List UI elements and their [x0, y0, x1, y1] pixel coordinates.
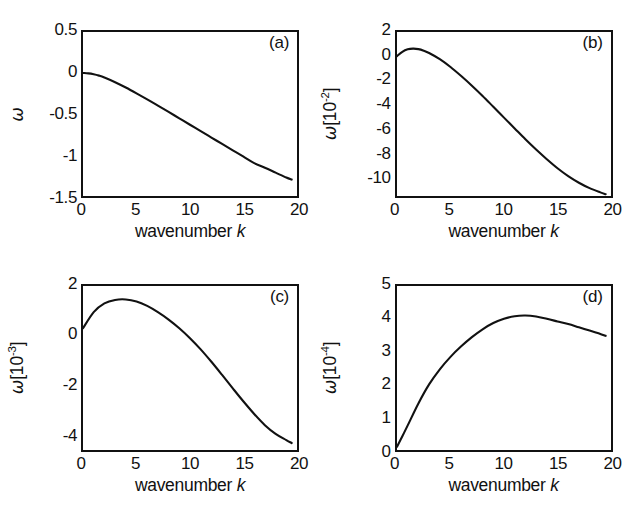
panel-c-x-axis-title: wavenumber k [81, 475, 299, 496]
panel-c-x-axis-title-prefix: wavenumber [135, 475, 237, 495]
panel-b: 20-2-4-6-8-10 ω[10-2] (b) 05101520 waven… [314, 0, 627, 254]
panel-d-curve-svg [397, 286, 611, 450]
panel-d-x-axis-title-prefix: wavenumber [448, 475, 550, 495]
panel-a-y-axis-title: ω [6, 30, 28, 198]
panel-b-plot-area: (b) [395, 30, 613, 198]
panel-b-xtick-label: 15 [549, 200, 567, 220]
panel-d-xtick-label: 5 [444, 454, 453, 474]
panel-c-ytick-label: -2 [63, 375, 77, 395]
panel-b-xtick-label: 0 [390, 200, 399, 220]
panel-d-unit-close: ] [320, 341, 340, 346]
panel-d-xtick-label: 10 [494, 454, 512, 474]
panel-b-xtick-label: 5 [444, 200, 453, 220]
panel-d-ytick-label: 5 [381, 274, 390, 294]
panel-b-ytick-label: 2 [381, 20, 390, 40]
panel-d-x-axis-title: wavenumber k [395, 475, 613, 496]
panel-b-xtick-label: 20 [603, 200, 621, 220]
dispersion-relation-figure: 0.50-0.5-1-1.5 ω (a) 05101520 wavenumber… [0, 0, 627, 507]
panel-b-unit-open: [10 [320, 102, 340, 126]
panel-c-curve-svg [83, 286, 297, 450]
panel-c-plot-area: (c) [81, 284, 299, 452]
panel-a-ytick-label: -1 [63, 146, 77, 166]
panel-d-unit-open: [10 [320, 356, 340, 380]
panel-d-ytick-label: 2 [381, 374, 390, 394]
panel-c-xtick-label: 20 [290, 454, 308, 474]
panel-b-y-axis-title: ω[10-2] [320, 30, 342, 198]
panel-c-xtick-label: 10 [181, 454, 199, 474]
panel-b-x-axis-title-prefix: wavenumber [448, 221, 550, 241]
panel-a: 0.50-0.5-1-1.5 ω (a) 05101520 wavenumber… [0, 0, 314, 254]
panel-a-ytick-label: -0.5 [49, 104, 77, 124]
panel-d-plot-area: (d) [395, 284, 613, 452]
panel-b-x-axis-title-var: k [550, 221, 558, 241]
panel-d-y-axis-title: ω[10-4] [320, 284, 342, 452]
panel-a-xtick-label: 5 [131, 200, 140, 220]
panel-b-unit-close: ] [320, 88, 340, 93]
panel-a-x-axis-title-prefix: wavenumber [135, 221, 237, 241]
panel-c-ytick-label: 0 [68, 324, 77, 344]
panel-c-label: (c) [270, 288, 289, 307]
panel-d-ytick-label: 3 [381, 341, 390, 361]
panel-c-xtick-label: 5 [131, 454, 140, 474]
panel-c-ytick-label: 2 [68, 274, 77, 294]
panel-b-ytick-label: -8 [376, 144, 390, 164]
panel-c-unit-open: [10 [7, 356, 27, 380]
panel-d: 543210 ω[10-4] (d) 05101520 wavenumber k [314, 254, 627, 507]
panel-a-plot-area: (a) [81, 30, 299, 198]
panel-d-x-axis-title-var: k [550, 475, 558, 495]
panel-a-xtick-label: 0 [76, 200, 85, 220]
panel-d-label: (d) [583, 288, 603, 307]
panel-a-xtick-label: 15 [235, 200, 253, 220]
panel-b-ytick-label: -4 [376, 94, 390, 114]
panel-a-xtick-label: 10 [181, 200, 199, 220]
panel-b-xtick-label: 10 [494, 200, 512, 220]
panel-a-data-curve [83, 73, 292, 180]
panel-b-omega-symbol: ω [320, 126, 340, 140]
panel-d-ytick-label: 4 [381, 307, 390, 327]
panel-c-xtick-label: 0 [76, 454, 85, 474]
panel-a-x-axis-title: wavenumber k [81, 221, 299, 242]
panel-d-ytick-label: 1 [381, 408, 390, 428]
panel-a-label: (a) [269, 34, 289, 53]
panel-d-unit-exponent: -4 [320, 346, 332, 356]
panel-a-ytick-label: 0.5 [55, 20, 77, 40]
panel-b-x-axis-title: wavenumber k [395, 221, 613, 242]
panel-c: 20-2-4 ω[10-3] (c) 05101520 wavenumber k [0, 254, 314, 507]
panel-b-unit-exponent: -2 [320, 92, 332, 102]
panel-d-xtick-label: 0 [390, 454, 399, 474]
panel-b-ytick-label: -10 [367, 168, 390, 188]
panel-c-unit-exponent: -3 [6, 346, 18, 356]
panel-d-xtick-label: 15 [549, 454, 567, 474]
panel-c-omega-symbol: ω [7, 379, 27, 393]
panel-d-omega-symbol: ω [320, 379, 340, 393]
panel-b-data-curve [397, 49, 606, 195]
panel-c-y-axis-title: ω[10-3] [6, 284, 28, 452]
panel-c-ytick-label: -4 [63, 426, 77, 446]
panel-a-omega-symbol: ω [7, 107, 27, 121]
panel-c-x-axis-title-var: k [237, 475, 245, 495]
panel-c-data-curve [83, 299, 292, 443]
panel-d-xtick-label: 20 [603, 454, 621, 474]
panel-b-ytick-label: 0 [381, 45, 390, 65]
panel-b-label: (b) [583, 34, 603, 53]
panel-a-xtick-label: 20 [290, 200, 308, 220]
panel-c-xtick-label: 15 [235, 454, 253, 474]
panel-a-ytick-label: 0 [68, 62, 77, 82]
panel-a-x-axis-title-var: k [237, 221, 245, 241]
panel-c-unit-close: ] [7, 341, 27, 346]
panel-d-data-curve [397, 315, 606, 446]
panel-a-curve-svg [83, 32, 297, 196]
panel-b-ytick-label: -6 [376, 119, 390, 139]
panel-b-curve-svg [397, 32, 611, 196]
panel-b-ytick-label: -2 [376, 69, 390, 89]
